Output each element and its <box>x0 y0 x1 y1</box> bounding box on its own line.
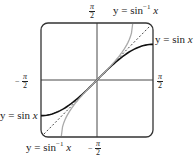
label-arcsin-top: y = sin−1 x <box>113 4 158 16</box>
label-sin-right: y = sin x <box>155 34 193 45</box>
graph-canvas <box>0 0 195 160</box>
label-top-pi-over-2: π 2 <box>89 3 95 20</box>
label-sin-left: y = sin x <box>0 110 38 121</box>
label-left-neg-pi-over-2: − π 2 <box>22 73 28 90</box>
label-bottom-neg-pi-over-2: − π 2 <box>95 140 101 157</box>
label-right-pi-over-2: π 2 <box>157 73 163 90</box>
label-arcsin-bottom: y = sin−1 x <box>26 141 71 153</box>
